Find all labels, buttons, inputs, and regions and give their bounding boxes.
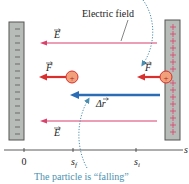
dotted-arrow-top-icon [143,0,153,64]
field-arrow-bottom: E [40,119,157,139]
dotted-arrow-bottom-icon [79,100,88,168]
tick-si-label: si [134,156,140,169]
tick-sf-label: sf [71,156,78,169]
field-arrow-top: E [40,29,157,46]
axis-variable-label: s [184,144,188,155]
svg-text:+: + [69,73,74,83]
force-arrow-left: F [39,62,66,81]
tick-zero-label: 0 [22,156,27,167]
svg-text:+: + [163,73,168,83]
electric-field-leader [121,20,128,41]
charge-left: + [66,71,78,83]
displacement-arrow: Δr [70,91,160,109]
negative-plate [9,22,24,140]
charge-right: + [160,71,172,83]
particle-in-field-diagram: Electric field E F + F + Δr [0,0,189,184]
s-axis: s 0 sf si [4,144,188,169]
electric-field-label: Electric field [82,8,134,19]
delta-r-label: Δr [95,98,106,109]
force-arrow-right: F [137,62,160,81]
caption: The particle is “falling” [34,171,129,182]
